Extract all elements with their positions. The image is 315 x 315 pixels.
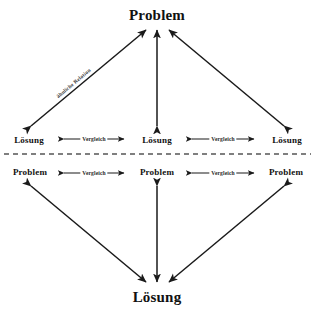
node-bottom-row-problem-left: Problem xyxy=(13,167,47,177)
label-vergleich-top-left: Vergleich xyxy=(80,136,107,142)
node-top-row-loesung-center: Lösung xyxy=(142,135,172,145)
label-vergleich-bottom-right: Vergleich xyxy=(209,170,236,176)
node-top-row-loesung-right: Lösung xyxy=(272,135,302,145)
edge-right-loesung-to-problem xyxy=(169,30,284,126)
edge-left-loesung-to-problem xyxy=(31,30,146,126)
node-top-apex-problem: Problem xyxy=(129,7,185,24)
diagram-canvas: Problem Lösung Lösung Lösung Vergleich V… xyxy=(0,0,315,315)
edge-left-problem-to-loesung xyxy=(31,186,146,282)
label-vergleich-top-right: Vergleich xyxy=(209,136,236,142)
node-top-row-loesung-left: Lösung xyxy=(14,135,44,145)
node-bottom-row-problem-right: Problem xyxy=(269,167,303,177)
diagram-lines xyxy=(0,0,315,315)
label-vergleich-bottom-left: Vergleich xyxy=(80,170,107,176)
node-bottom-row-problem-center: Problem xyxy=(140,167,174,177)
edge-right-problem-to-loesung xyxy=(169,186,284,282)
node-bottom-apex-loesung: Lösung xyxy=(133,289,182,306)
